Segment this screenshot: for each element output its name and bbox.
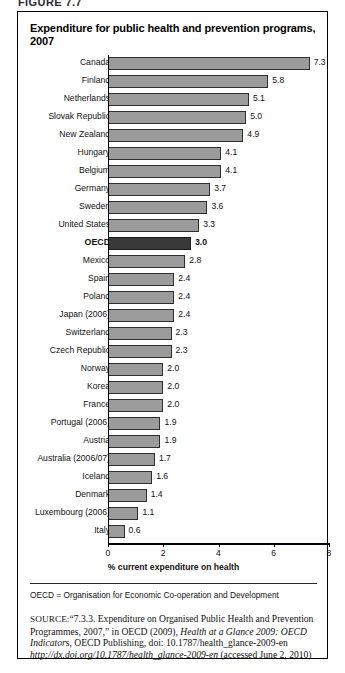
x-axis-tick: [274, 543, 275, 547]
bar: [108, 309, 174, 322]
bar-category-label: Italy: [0, 525, 110, 536]
bar-row: France2.0: [18, 397, 329, 415]
bar-value-label: 1.6: [156, 471, 168, 482]
source-doi-link: http://dx.doi.org/10.1787/health_glance-…: [30, 649, 218, 660]
bar: [108, 93, 249, 106]
chart-plot-area: Canada7.3Finland5.8Netherlands5.1Slovak …: [18, 51, 329, 551]
bar: [108, 435, 160, 448]
bar-value-label: 4.9: [247, 129, 259, 140]
bar-row: Norway2.0: [18, 361, 329, 379]
figure-panel: Expenditure for public health and preven…: [17, 11, 328, 659]
bar-category-label: United States: [0, 219, 110, 230]
bar: [108, 399, 163, 412]
x-axis-tick-label: 0: [98, 548, 118, 559]
bar-category-label: Canada: [0, 57, 110, 68]
bar: [108, 291, 174, 304]
bar-category-label: Poland: [0, 291, 110, 302]
bar-category-label: Denmark: [0, 489, 110, 500]
bar: [108, 57, 310, 70]
bar-category-label: Luxembourg (2006): [0, 507, 110, 518]
bar-value-label: 5.1: [253, 93, 265, 104]
bar-category-label: Mexico: [0, 255, 110, 266]
bar-row: Switzerland2.3: [18, 325, 329, 343]
x-axis-tick: [108, 543, 109, 547]
source-label: SOURCE:: [30, 614, 70, 624]
bar-category-label: Norway: [0, 363, 110, 374]
bar: [108, 111, 246, 124]
bar-category-label: Finland: [0, 75, 110, 86]
bar-value-label: 1.1: [142, 507, 154, 518]
bar: [108, 453, 155, 466]
bar-value-label: 1.9: [164, 417, 176, 428]
bar: [108, 255, 185, 268]
bar: [108, 219, 199, 232]
bar-row: OECD3.0: [18, 235, 329, 253]
bar: [108, 147, 221, 160]
bar-row: Sweden3.6: [18, 199, 329, 217]
chart-title: Expenditure for public health and preven…: [30, 22, 320, 48]
bar-category-label: France: [0, 399, 110, 410]
bar: [108, 471, 152, 484]
bar-row: Netherlands5.1: [18, 91, 329, 109]
bar: [108, 417, 160, 430]
bar: [108, 345, 172, 358]
bar-value-label: 3.3: [203, 219, 215, 230]
abbreviation-note: OECD = Organisation for Economic Co-oper…: [30, 590, 320, 601]
bar-row: Italy0.6: [18, 523, 329, 541]
x-axis-tick: [163, 543, 164, 547]
bar-category-label: Czech Republic: [0, 345, 110, 356]
bar-row: Austria1.9: [18, 433, 329, 451]
bar-category-label: Slovak Republic: [0, 111, 110, 122]
figure-label: FIGURE 7.7: [18, 0, 82, 8]
bar: [108, 525, 125, 538]
bar-value-label: 1.7: [159, 453, 171, 464]
x-axis-tick-label: 4: [209, 548, 229, 559]
bar-row: Hungary4.1: [18, 145, 329, 163]
bar-rows: Canada7.3Finland5.8Netherlands5.1Slovak …: [18, 55, 329, 541]
bar-value-label: 0.6: [129, 525, 141, 536]
bar-category-label: Iceland: [0, 471, 110, 482]
bar-row: Finland5.8: [18, 73, 329, 91]
bar-category-label: OECD: [0, 237, 110, 248]
bar-value-label: 7.3: [314, 57, 326, 68]
bar-value-label: 3.0: [195, 237, 207, 248]
bar-category-label: Austria: [0, 435, 110, 446]
bar-value-label: 2.0: [167, 363, 179, 374]
bar-category-label: Netherlands: [0, 93, 110, 104]
bar-category-label: Japan (2006): [0, 309, 110, 320]
x-axis-tick-label: 6: [264, 548, 284, 559]
bar-row: Japan (2006)2.4: [18, 307, 329, 325]
bar-value-label: 2.4: [178, 309, 190, 320]
bar-value-label: 2.8: [189, 255, 201, 266]
bar: [108, 201, 207, 214]
bar-row: Denmark1.4: [18, 487, 329, 505]
bar-row: Germany3.7: [18, 181, 329, 199]
bar-value-label: 2.3: [176, 345, 188, 356]
bar-row: Luxembourg (2006)1.1: [18, 505, 329, 523]
bar-row: Poland2.4: [18, 289, 329, 307]
bar-row: Belgium4.1: [18, 163, 329, 181]
bar-category-label: Portugal (2006): [0, 417, 110, 428]
bar-row: Australia (2006/07)1.7: [18, 451, 329, 469]
x-axis-tick-label: 8: [319, 548, 339, 559]
bar-category-label: Spain: [0, 273, 110, 284]
bar-row: Mexico2.8: [18, 253, 329, 271]
bar: [108, 327, 172, 340]
bar: [108, 507, 138, 520]
bar-value-label: 2.4: [178, 291, 190, 302]
bar: [108, 489, 147, 502]
bar-category-label: Germany: [0, 183, 110, 194]
notes-divider: [30, 583, 317, 584]
bar: [108, 165, 221, 178]
x-axis-tick: [219, 543, 220, 547]
bar: [108, 273, 174, 286]
bar: [108, 363, 163, 376]
bar-category-label: New Zealand: [0, 129, 110, 140]
bar: [108, 183, 210, 196]
bar-value-label: 5.8: [272, 75, 284, 86]
x-axis-tick: [329, 543, 330, 547]
bar: [108, 129, 243, 142]
bar-value-label: 3.7: [214, 183, 226, 194]
bar-row: Spain2.4: [18, 271, 329, 289]
bar-category-label: Sweden: [0, 201, 110, 212]
